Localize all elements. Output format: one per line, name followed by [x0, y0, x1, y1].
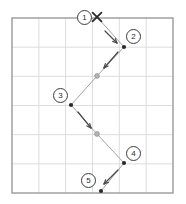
node-dot-4 [122, 161, 126, 165]
diagram-svg [0, 0, 186, 204]
node-dot-3 [69, 103, 73, 107]
step-label-4: 4 [126, 146, 141, 161]
step-label-2: 2 [126, 29, 141, 44]
waypoint-dot-2 [95, 74, 100, 79]
node-dot-5 [99, 189, 103, 193]
step-label-3: 3 [53, 88, 68, 103]
node-dot-2 [122, 45, 126, 49]
step-label-1: 1 [77, 10, 92, 25]
diagram-canvas: 12345 [0, 0, 186, 204]
waypoint-dot-4 [95, 132, 100, 137]
step-label-5: 5 [81, 173, 96, 188]
